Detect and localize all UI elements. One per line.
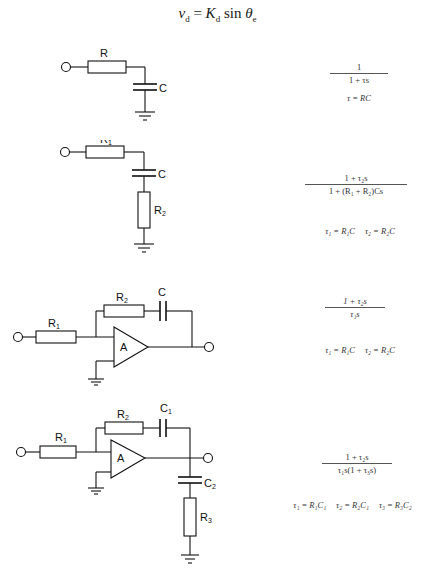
transfer-function-3: 1 + τ₂s τ₁s bbox=[325, 296, 385, 319]
tau-2: τ₂ = R₂C bbox=[365, 345, 395, 355]
tf-denominator: τ₁s bbox=[325, 309, 385, 319]
tau-2: τ₂ = R₂C bbox=[365, 226, 395, 236]
input-terminal bbox=[62, 63, 71, 72]
label-r: R bbox=[100, 47, 108, 59]
output-terminal bbox=[204, 454, 213, 463]
input-terminal bbox=[17, 448, 26, 457]
resistor-r2 bbox=[104, 305, 144, 317]
label-amp: A bbox=[117, 452, 125, 464]
tf-numerator: 1 bbox=[330, 62, 388, 72]
resistor-r2 bbox=[138, 192, 150, 228]
tf-numerator: 1 + τ₂s bbox=[325, 296, 385, 306]
label-r1: R1 bbox=[48, 317, 60, 330]
label-c2: C2 bbox=[204, 477, 216, 490]
label-r2: R2 bbox=[116, 291, 128, 304]
label-r1: R1 bbox=[100, 140, 112, 146]
transfer-function-4: 1 + τ₂s τ₁s(1 + τ₃s) bbox=[322, 452, 392, 475]
circuit-passive-lag: R C bbox=[0, 0, 240, 140]
circuit-passive-lag-lead: R1 C R2 bbox=[0, 140, 240, 275]
label-r1: R1 bbox=[55, 431, 67, 444]
eq-theta-sub: e bbox=[253, 14, 257, 24]
ground-icon bbox=[135, 112, 155, 120]
resistor-r bbox=[88, 61, 126, 73]
transfer-function-1: 1 1 + τs bbox=[330, 62, 388, 85]
label-r2: R2 bbox=[117, 408, 129, 421]
resistor-r3 bbox=[184, 498, 196, 536]
tau-1: τ₁ = R₁C₁ bbox=[293, 500, 326, 510]
ground-icon bbox=[88, 379, 104, 385]
tf-numerator: 1 + τ₂s bbox=[305, 173, 407, 183]
input-terminal bbox=[14, 333, 23, 342]
label-r2: R2 bbox=[154, 204, 166, 217]
time-constants-3: τ₁ = R₁Cτ₂ = R₂C bbox=[290, 345, 430, 355]
ground-icon bbox=[181, 555, 199, 563]
resistor-r1 bbox=[36, 331, 76, 343]
circuit-active-pi-with-pole: R1 R2 C1 C2 R3 A bbox=[0, 395, 240, 580]
tau-1: τ₁ = R₁C bbox=[325, 345, 355, 355]
resistor-r1 bbox=[86, 146, 124, 158]
ground-icon bbox=[134, 244, 154, 252]
resistor-r2 bbox=[105, 422, 143, 434]
output-terminal bbox=[205, 343, 214, 352]
time-constants-4: τ₁ = R₁C₁τ₂ = R₂C₁τ₃ = R₃C₂ bbox=[270, 500, 435, 510]
label-amp: A bbox=[120, 341, 128, 353]
label-c: C bbox=[159, 82, 167, 94]
label-c1: C1 bbox=[160, 402, 172, 415]
circuit-active-pi: R1 R2 C A bbox=[0, 275, 240, 395]
label-r3: R3 bbox=[200, 511, 212, 524]
time-constants-1: τ = RC bbox=[300, 93, 418, 103]
label-c: C bbox=[158, 286, 166, 298]
tau-3: τ₃ = R₃C₂ bbox=[379, 500, 412, 510]
tau-2: τ₂ = R₂C₁ bbox=[336, 500, 369, 510]
time-constants-2: τ₁ = R₁Cτ₂ = R₂C bbox=[290, 226, 430, 236]
ground-icon bbox=[88, 488, 104, 494]
tf-numerator: 1 + τ₂s bbox=[322, 452, 392, 462]
resistor-r1 bbox=[40, 446, 76, 458]
label-c: C bbox=[158, 168, 166, 180]
input-terminal bbox=[61, 148, 70, 157]
eq-theta: θ bbox=[245, 5, 252, 21]
tau: τ = RC bbox=[347, 93, 371, 103]
tau-1: τ₁ = R₁C bbox=[325, 226, 355, 236]
transfer-function-2: 1 + τ₂s 1 + (R₁ + R₂)Cs bbox=[305, 173, 407, 196]
tf-denominator: 1 + τs bbox=[330, 75, 388, 85]
tf-denominator: τ₁s(1 + τ₃s) bbox=[322, 465, 392, 475]
tf-denominator: 1 + (R₁ + R₂)Cs bbox=[305, 186, 407, 196]
